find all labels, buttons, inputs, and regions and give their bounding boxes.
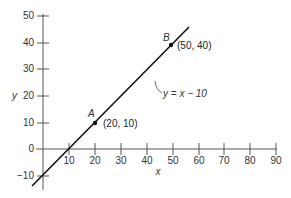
x-tick-label: 40 [141, 155, 153, 166]
chart-canvas: 50 40 30 20 10 0 −10 y 10 20 30 40 50 60… [0, 0, 291, 198]
line-y-equals-x-minus-10 [32, 27, 189, 186]
point-b-coords: (50, 40) [177, 40, 211, 51]
x-axis-label: x [155, 166, 162, 177]
y-tick-label: 10 [23, 117, 35, 128]
x-tick-label: 80 [244, 155, 256, 166]
x-tick-label: 90 [270, 155, 282, 166]
point-b-label: B [163, 32, 170, 43]
point-a-label: A [87, 108, 95, 119]
y-tick-label: 0 [28, 143, 34, 154]
x-tick-label: 60 [193, 155, 205, 166]
x-tick-label: 10 [63, 155, 75, 166]
y-axis-label: y [11, 90, 18, 101]
x-tick-label: 20 [89, 155, 101, 166]
equation-leader [155, 81, 162, 93]
y-tick-label: 50 [23, 10, 35, 21]
y-tick-label: 30 [23, 63, 35, 74]
y-tick-labels: 50 40 30 20 10 0 −10 [17, 10, 34, 181]
x-tick-labels: 10 20 30 40 50 60 70 80 90 [63, 155, 282, 166]
point-a-coords: (20, 10) [103, 118, 137, 129]
y-tick-label: 20 [23, 90, 35, 101]
point-b-marker [169, 43, 173, 47]
x-tick-label: 50 [167, 155, 179, 166]
y-tick-label: −10 [17, 170, 34, 181]
equation-label: y = x − 10 [162, 88, 207, 99]
x-tick-label: 70 [218, 155, 230, 166]
point-a-marker [93, 121, 97, 125]
y-tick-label: 40 [23, 37, 35, 48]
x-tick-label: 30 [115, 155, 127, 166]
